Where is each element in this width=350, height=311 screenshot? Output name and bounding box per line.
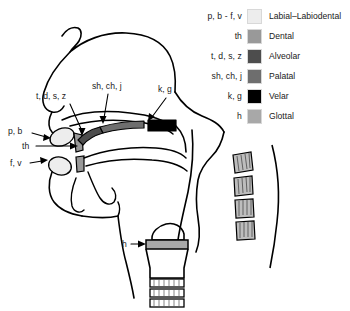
vertebrae-group — [233, 145, 278, 268]
legend-row-alveolar: t, d, s, z Alveolar — [180, 46, 348, 66]
pharynx-group — [176, 126, 193, 240]
soft-palate-uvula — [176, 126, 186, 152]
trachea-rings-group — [150, 279, 184, 307]
velar-region — [148, 120, 176, 131]
legend-phonemes: h — [180, 112, 242, 121]
legend-phonemes: t, d, s, z — [180, 52, 242, 61]
diagram-label-p-b: p, b — [8, 126, 23, 136]
diagram-label-k-g: k, g — [158, 84, 172, 94]
legend-phonemes: p, b - f, v — [180, 12, 242, 21]
legend-row-velar: k, g Velar — [180, 86, 348, 106]
legend-swatch-velar — [247, 89, 262, 104]
legend-phonemes: k, g — [180, 92, 242, 101]
diagram-label-h: h — [122, 239, 127, 249]
legend-swatch-palatal — [247, 69, 262, 84]
glottis-region — [146, 240, 188, 249]
jaw-lower-outline — [82, 202, 120, 218]
epiglottis-outline — [88, 172, 116, 204]
diagram-label-th: th — [22, 141, 29, 151]
spine-back-outline — [270, 145, 278, 268]
larynx-body-outline — [146, 249, 188, 278]
palatal-region — [100, 121, 144, 133]
legend-row-dental: th Dental — [180, 26, 348, 46]
hyoid-epiglottis-group — [71, 172, 116, 212]
nose-outline — [43, 52, 70, 112]
neck-front-outline — [118, 216, 134, 298]
legend: p, b - f, v Labial–Labiodental th Dental… — [180, 6, 348, 126]
diagram-label-f-v: f, v — [10, 158, 22, 168]
legend-swatch-glottal — [247, 109, 262, 124]
diagram-label-t-d-s-z: t, d, s, z — [36, 91, 66, 101]
leader-f-v — [30, 161, 42, 163]
legend-place-name: Velar — [269, 92, 289, 101]
legend-phonemes: sh, ch, j — [180, 72, 242, 81]
tongue-group — [84, 147, 187, 171]
tongue-surface — [84, 147, 186, 158]
legend-row-glottal: h Glottal — [180, 106, 348, 126]
leader-k-g — [152, 98, 166, 117]
nape-outline — [196, 132, 224, 252]
legend-place-name: Alveolar — [269, 52, 300, 61]
jaw-neck-outline-group — [49, 172, 134, 298]
lower-teeth-region — [76, 156, 84, 172]
legend-place-name: Glottal — [269, 112, 294, 121]
vocal-tract-figure: t, d, s, z sh, ch, j k, g p, b th f, v h… — [0, 0, 350, 311]
legend-swatch-dental — [247, 29, 262, 44]
legend-swatch-labial-labiodental — [247, 9, 262, 24]
chin-outline — [49, 172, 82, 216]
legend-row-labial-labiodental: p, b - f, v Labial–Labiodental — [180, 6, 348, 26]
legend-place-name: Palatal — [269, 72, 295, 81]
larynx-group — [146, 223, 188, 278]
legend-phonemes: th — [180, 32, 242, 41]
legend-place-name: Dental — [269, 32, 294, 41]
legend-row-palatal: sh, ch, j Palatal — [180, 66, 348, 86]
hyoid-outline — [71, 178, 84, 212]
leader-sh-ch-j — [104, 94, 108, 118]
arrowhead-h — [138, 241, 146, 248]
arrowhead-f-v — [40, 157, 48, 164]
legend-place-name: Labial–Labiodental — [269, 12, 341, 21]
lips-group — [47, 124, 77, 177]
legend-swatch-alveolar — [247, 49, 262, 64]
mouth-floor — [86, 159, 187, 171]
leader-t-d-s-z — [70, 104, 82, 131]
diagram-label-sh-ch-j: sh, ch, j — [92, 81, 122, 91]
